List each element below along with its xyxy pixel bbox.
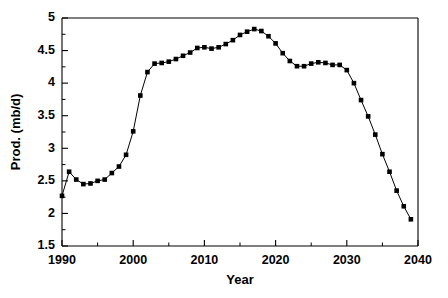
- data-point-marker: [302, 64, 307, 69]
- data-point-marker: [273, 41, 278, 46]
- y-tick-label: 5: [48, 10, 55, 24]
- data-point-marker: [280, 51, 285, 56]
- data-point-marker: [181, 53, 186, 58]
- data-point-marker: [102, 177, 107, 182]
- data-point-marker: [316, 60, 321, 65]
- data-point-marker: [330, 63, 335, 68]
- data-point-marker: [252, 27, 257, 32]
- data-point-marker: [138, 93, 143, 98]
- data-point-marker: [174, 57, 179, 62]
- data-point-marker: [81, 182, 86, 187]
- data-point-marker: [359, 98, 364, 103]
- chart-axes: [62, 18, 418, 246]
- data-point-marker: [110, 171, 115, 176]
- axis-ticks: [62, 18, 418, 246]
- x-tick-label: 2020: [262, 253, 290, 267]
- data-point-marker: [266, 34, 271, 39]
- data-point-marker: [67, 169, 72, 174]
- data-point-marker: [131, 129, 136, 134]
- data-point-marker: [394, 188, 399, 193]
- data-point-marker: [366, 114, 371, 119]
- production-line-chart: 1.522.533.544.55199020002010202020302040…: [0, 0, 448, 298]
- data-point-marker: [288, 59, 293, 64]
- data-point-marker: [223, 42, 228, 47]
- chart-figure: 1.522.533.544.55199020002010202020302040…: [0, 0, 448, 298]
- x-tick-label: 2000: [119, 253, 147, 267]
- axis-tick-labels: 1.522.533.544.55199020002010202020302040: [38, 10, 432, 267]
- data-point-marker: [202, 45, 207, 50]
- data-point-marker: [373, 132, 378, 137]
- y-tick-label: 4.5: [38, 43, 55, 57]
- y-tick-label: 2: [48, 206, 55, 220]
- data-point-marker: [124, 153, 129, 158]
- data-point-marker: [167, 59, 172, 64]
- data-point-marker: [345, 68, 350, 73]
- data-series-production: [60, 27, 413, 222]
- data-point-marker: [238, 33, 243, 38]
- data-point-marker: [259, 29, 264, 34]
- data-point-marker: [60, 194, 65, 199]
- data-point-marker: [209, 46, 214, 51]
- x-tick-label: 2030: [333, 253, 361, 267]
- data-point-marker: [74, 177, 79, 182]
- data-point-marker: [352, 81, 357, 86]
- x-tick-label: 1990: [48, 253, 76, 267]
- data-point-marker: [309, 61, 314, 66]
- x-tick-label: 2010: [190, 253, 218, 267]
- data-point-marker: [337, 63, 342, 68]
- data-point-marker: [231, 38, 236, 43]
- y-tick-label: 2.5: [38, 173, 55, 187]
- y-tick-label: 1.5: [38, 238, 55, 252]
- series-line: [62, 29, 411, 219]
- data-point-marker: [387, 169, 392, 174]
- data-point-marker: [295, 64, 300, 69]
- data-point-marker: [195, 46, 200, 51]
- data-point-marker: [401, 204, 406, 209]
- y-tick-label: 4: [48, 75, 55, 89]
- data-point-marker: [145, 70, 150, 75]
- data-point-marker: [216, 45, 221, 50]
- data-point-marker: [323, 61, 328, 66]
- x-tick-label: 2040: [404, 253, 432, 267]
- data-point-marker: [117, 164, 122, 169]
- data-point-marker: [409, 217, 414, 222]
- y-tick-label: 3.5: [38, 108, 55, 122]
- y-tick-label: 3: [48, 141, 55, 155]
- data-point-marker: [88, 181, 93, 186]
- y-axis-title: Prod. (mb/d): [8, 94, 23, 171]
- data-point-marker: [152, 61, 157, 66]
- data-point-marker: [159, 61, 164, 66]
- data-point-marker: [188, 50, 193, 55]
- data-point-marker: [245, 29, 250, 34]
- data-point-marker: [95, 179, 100, 184]
- data-point-marker: [380, 152, 385, 157]
- x-axis-title: Year: [226, 272, 253, 287]
